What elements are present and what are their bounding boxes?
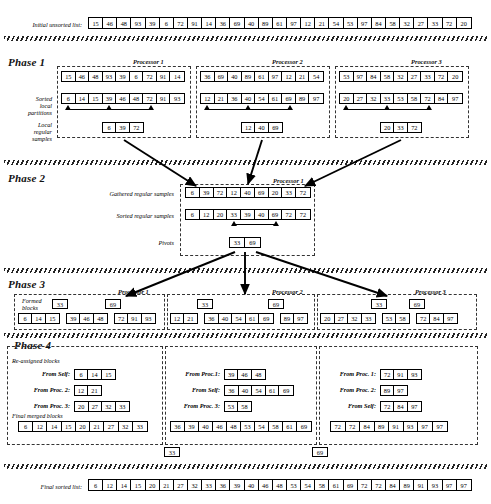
array-cell: 46 [80,314,93,323]
phase1-proc2-sample-markers [200,105,324,111]
array-cell: 89 [296,94,310,103]
array-cell: 69 [255,188,269,197]
phase1-proc1-unsorted: 15464893396729114 [61,71,185,82]
array-cell: 69 [245,238,260,247]
array-cell: 58 [396,314,409,323]
array-cell: 6 [186,210,200,219]
phase3-proc3-pivot-33: 33 [371,299,387,309]
phase2-sorted-samples: 61220333940697272 [185,209,311,220]
array-cell: 58 [386,18,400,28]
sample-marker-icon [106,105,112,110]
array-cell: 12 [75,386,88,395]
array-cell: 54 [232,314,246,323]
array-cell: 97 [457,480,471,490]
phase4-reassigned-row: From Proc. 2:1221 [10,382,162,398]
array-cell: 12 [242,123,255,132]
array-cell: 33 [394,123,407,132]
array-cell: 39 [200,188,214,197]
array-cell: 89 [259,18,273,28]
phase2-gathered-samples: 63972124069203372 [185,187,311,198]
array-cell: 53 [394,94,408,103]
array-cell: 40 [239,386,253,395]
array-cell: 93 [131,18,145,28]
array-cell: 6 [186,188,200,197]
phase3-block: 20273233 [320,313,376,324]
array-cell: 97 [294,314,307,323]
array-cell: 97 [394,386,407,395]
array-cell: 20 [448,72,462,81]
array-cell: 91 [157,94,171,103]
array-cell: 54 [309,72,323,81]
array-cell: 91 [414,480,428,490]
array-cell: 69 [259,314,273,323]
array-cell: 36 [228,94,242,103]
array-cell: 33 [362,314,375,323]
array-cell: 93 [404,422,419,431]
phase4-proc1-reassigned: From Self:61415From Proc. 2:1221From Pro… [10,366,162,414]
array-cell: 72 [435,72,449,81]
array-cell: 91 [128,314,141,323]
phase3-proc1-blocks: 61415394648729193 [18,313,156,324]
array-cell: 97 [354,72,368,81]
array-cell: 72 [408,123,421,132]
array-cell: 53 [287,480,301,490]
phase2-heading: Phase 2 [8,172,45,184]
array-cell: 72 [143,72,157,81]
array-cell: 89 [242,72,256,81]
phase4-proc1-merged: 61214152021273233 [18,421,148,432]
phase3-proc3-blocks: 202732335358728497 [320,313,458,324]
array-cell: 27 [104,422,118,431]
phase4-reassigned-array: 728497 [380,401,422,412]
phase2-pivot-markers [185,221,311,227]
phase4-reassigned-array: 394648 [224,369,266,380]
array-cell: 84 [386,480,400,490]
phase4-source-label: From Self: [322,402,380,409]
phase4-reassigned-array: 3640546169 [224,385,294,396]
array-cell: 32 [400,18,414,28]
array-cell: 12 [201,94,215,103]
array-cell: 40 [242,94,256,103]
phase4-boundary-pivot-33: 33 [164,447,180,457]
array-cell: 6 [19,422,33,431]
array-cell: 40 [255,123,268,132]
array-cell: 14 [32,314,45,323]
array-cell: 53 [225,402,238,411]
array-cell: 15 [89,18,103,28]
phase3-proc2-pivot-69: 69 [268,299,284,309]
array-cell: 20 [321,314,335,323]
array-cell: 20 [76,422,90,431]
sample-marker-icon [273,221,279,226]
phase1-proc1-title: Processor 1 [133,58,164,65]
array-cell: 6 [130,72,144,81]
phase1-proc1-sorted: 61415394648729193 [61,93,185,104]
array-cell: 14 [202,18,216,28]
array-cell: 39 [146,18,160,28]
array-cell: 12 [103,480,117,490]
array-cell: 89 [281,314,294,323]
array-cell: 40 [245,18,259,28]
array-cell: 72 [346,422,361,431]
array-cell: 91 [188,18,202,28]
array-cell: 27 [335,314,349,323]
sample-marker-icon [245,105,251,110]
phase2-pivots-label: Pivots [60,239,174,246]
array-cell: 53 [340,72,354,81]
array-cell: 21 [184,314,197,323]
initial-list-label: Initial unsorted list: [6,21,82,28]
array-cell: 72 [214,188,228,197]
array-cell: 39 [225,370,238,379]
array-cell: 12 [33,422,47,431]
array-cell: 91 [389,422,404,431]
phase1-proc3-samples: 203372 [380,122,422,133]
phase3-block: 5358 [382,313,410,324]
array-cell: 53 [344,18,358,28]
phase3-block: 729193 [114,313,156,324]
array-cell: 91 [157,72,171,81]
array-cell: 12 [227,188,241,197]
array-cell: 46 [76,72,90,81]
divider-phase3 [4,268,487,273]
array-cell: 93 [103,72,117,81]
array-cell: 69 [230,18,244,28]
array-cell: 32 [348,314,362,323]
array-cell: 20 [146,480,160,490]
